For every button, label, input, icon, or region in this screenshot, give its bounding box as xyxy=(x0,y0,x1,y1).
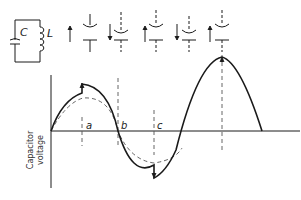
capacitor-states xyxy=(68,10,229,52)
marker-a-label: a xyxy=(86,120,92,131)
svg-text:voltage: voltage xyxy=(36,135,45,165)
lc-circuit-diagram: C L xyxy=(0,0,301,200)
capacitor-state-3-icon xyxy=(143,10,163,52)
time-markers xyxy=(82,55,222,155)
capacitor-state-2-icon xyxy=(108,12,128,52)
capacitor-voltage-curve xyxy=(51,57,262,178)
inductor-coil-icon xyxy=(40,27,44,53)
svg-text:Capacitor: Capacitor xyxy=(26,130,35,169)
capacitor-state-1-icon xyxy=(68,14,97,52)
marker-b-label: b xyxy=(121,120,127,131)
inductor-label: L xyxy=(47,27,53,40)
marker-c-label: c xyxy=(157,120,163,131)
capacitor-state-5-icon xyxy=(208,10,229,52)
capacitor-label: C xyxy=(20,26,28,39)
capacitor-state-4-icon xyxy=(175,16,196,52)
axes xyxy=(51,75,300,188)
y-axis-label: Capacitor voltage xyxy=(26,130,45,169)
